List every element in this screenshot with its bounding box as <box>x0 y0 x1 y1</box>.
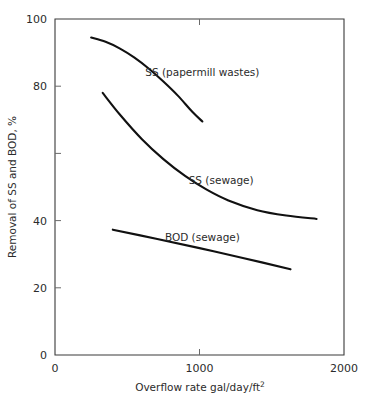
y-tick-label: 40 <box>33 215 47 228</box>
series-label: SS (papermill wastes) <box>145 66 259 78</box>
x-axis-title: Overflow rate gal/day/ft2 <box>135 380 265 393</box>
x-tick-label: 1000 <box>186 362 214 375</box>
chart-figure: 0204080100 010002000 SS (papermill waste… <box>0 0 367 402</box>
x-tick-label: 0 <box>52 362 59 375</box>
removal-vs-overflow-rate-chart: 0204080100 010002000 SS (papermill waste… <box>0 0 367 402</box>
x-tick-label: 2000 <box>330 362 358 375</box>
y-tick-label: 80 <box>33 80 47 93</box>
series-label: SS (sewage) <box>189 174 254 186</box>
x-axis-title-superscript: 2 <box>260 380 265 389</box>
x-axis-title-base: Overflow rate gal/day/ft <box>135 381 260 393</box>
y-axis-title: Removal of SS and BOD, % <box>6 116 18 258</box>
y-tick-label: 100 <box>26 13 47 26</box>
y-tick-label: 20 <box>33 282 47 295</box>
series-label: BOD (sewage) <box>165 231 240 243</box>
y-tick-label: 0 <box>40 349 47 362</box>
